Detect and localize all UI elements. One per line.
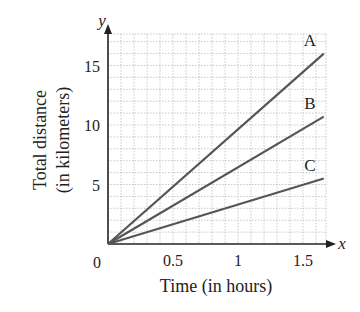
y-axis-title-line1: Total distance	[30, 90, 50, 190]
y-tick-label: 5	[92, 177, 100, 194]
x-axis-arrow-icon	[326, 240, 336, 248]
y-axis-letter: y	[96, 11, 106, 30]
x-axis-title: Time (in hours)	[160, 276, 272, 297]
origin-label: 0	[93, 254, 101, 271]
x-axis-letter: x	[337, 234, 346, 253]
x-tick-label: 1	[234, 252, 242, 269]
series-label-c: C	[304, 156, 315, 175]
series-line-c	[108, 179, 324, 244]
x-tick-label: 0.5	[163, 252, 183, 269]
y-tick-label: 15	[84, 58, 100, 75]
y-axis-title-line2: (in kilometers)	[53, 87, 74, 193]
series-label-b: B	[304, 94, 315, 113]
distance-time-chart: ABC0.511.5510150xyTime (in hours)Total d…	[0, 0, 360, 312]
series-label-a: A	[304, 31, 317, 50]
x-tick-label: 1.5	[293, 252, 313, 269]
series-line-b	[108, 117, 324, 244]
y-tick-label: 10	[84, 117, 100, 134]
